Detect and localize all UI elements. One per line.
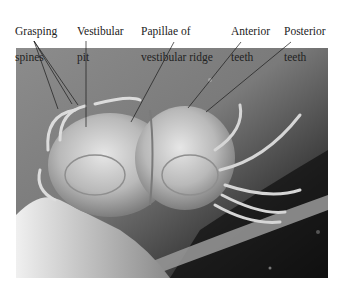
label-line: vestibular ridge [141, 51, 213, 64]
label-line: teeth [284, 51, 326, 64]
label-line: pit [77, 51, 124, 64]
label-line: Papillae of [141, 25, 213, 38]
label-posterior-teeth: Posterior teeth [284, 12, 326, 77]
label-line: teeth [231, 51, 270, 64]
label-line: Posterior [284, 25, 326, 38]
label-papillae: Papillae of vestibular ridge [141, 12, 213, 77]
label-line: Vestibular [77, 25, 124, 38]
label-grasping-spines: Grasping spines [15, 12, 57, 77]
label-anterior-teeth: Anterior teeth [231, 12, 270, 77]
label-line: spines [15, 51, 57, 64]
label-line: Anterior [231, 25, 270, 38]
label-line: Grasping [15, 25, 57, 38]
label-vestibular-pit: Vestibular pit [77, 12, 124, 77]
